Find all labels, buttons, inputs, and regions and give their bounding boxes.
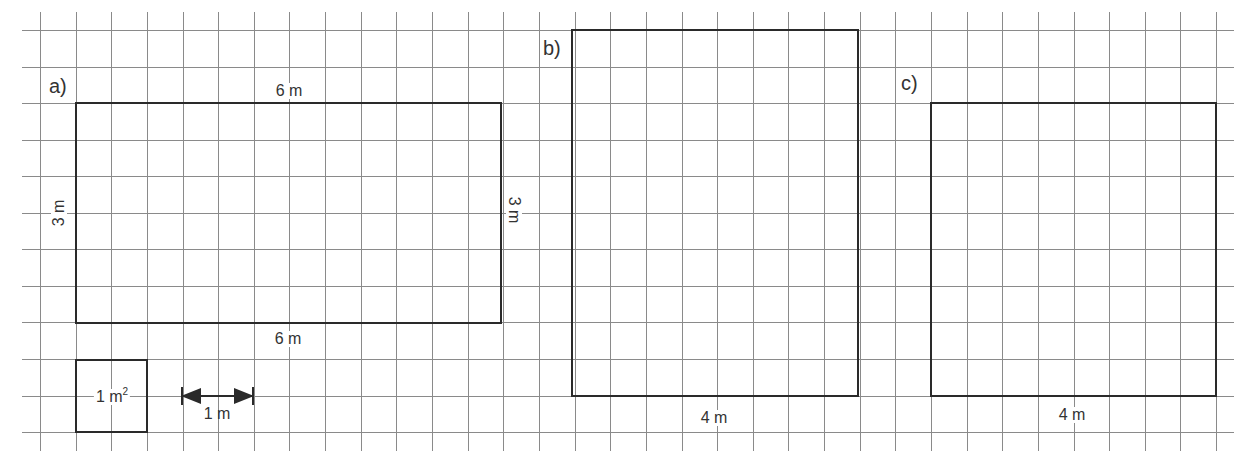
exponent: 2 (123, 386, 129, 397)
unit-length-label: 1 m (202, 406, 233, 422)
dim-a-bottom: 6 m (273, 331, 304, 347)
dim-a-top: 6 m (274, 83, 305, 99)
part-label-a: a) (49, 76, 67, 96)
unit-square-label: 1 m2 (94, 389, 130, 405)
unit-length-arrow (182, 387, 253, 405)
dim-a-right: 3 m (506, 195, 522, 226)
dim-c-bottom: 4 m (1057, 407, 1088, 423)
dim-a-left: 3 m (51, 198, 67, 229)
part-label-b: b) (543, 38, 561, 58)
part-label-c: c) (901, 73, 918, 93)
grid-diagram (0, 0, 1248, 462)
dim-b-bottom: 4 m (699, 410, 730, 426)
square-grid (22, 12, 1234, 451)
